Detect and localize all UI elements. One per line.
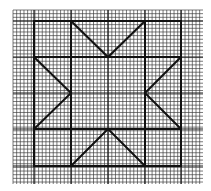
quilt-star-diagram	[0, 0, 211, 191]
